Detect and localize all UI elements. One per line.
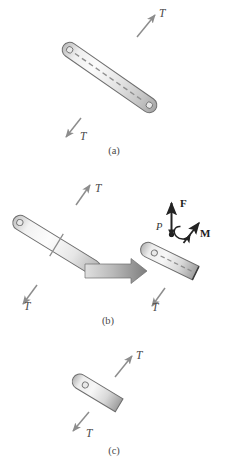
panel-c-label-T-top: T [136, 350, 142, 362]
moment-M-arrow [184, 223, 200, 243]
panel-a-label-T-top: T [159, 8, 165, 20]
panel-b-label-F: F [180, 198, 187, 209]
panel-a-force-line-top [137, 15, 155, 37]
panel-a-group [59, 15, 160, 137]
panel-a-label-T-bottom: T [80, 131, 86, 143]
panel-c-label-T-bottom: T [86, 428, 92, 440]
moment-curl-arc [174, 226, 190, 239]
panel-a-force-line-bottom [66, 118, 81, 137]
panel-b-label-T-top: T [95, 183, 101, 195]
panel-b-label-M: M [200, 228, 210, 239]
panel-b-label-T-bottom-right: T [152, 302, 158, 314]
panel-a-caption: (a) [104, 146, 124, 157]
figure-canvas [0, 0, 227, 470]
panel-c-caption: (c) [104, 446, 124, 457]
panel-b-label-P: P [156, 222, 162, 233]
panel-b-force-line-top [76, 185, 90, 205]
panel-c-group [69, 356, 132, 431]
panel-b-right-group [138, 203, 199, 306]
panel-c-bar [69, 371, 123, 411]
panel-b-caption: (b) [98, 316, 118, 327]
panel-a-bar [59, 39, 160, 115]
panel-b-cut-bar [138, 240, 199, 280]
panel-b-label-T-bottom: T [24, 301, 30, 313]
panel-a-centerline [75, 54, 144, 102]
panel-c-force-line-top [115, 356, 132, 377]
figure-container: T T (a) T T F M P T (b) T T (c) [0, 0, 227, 470]
panel-b-left-group [7, 185, 106, 304]
